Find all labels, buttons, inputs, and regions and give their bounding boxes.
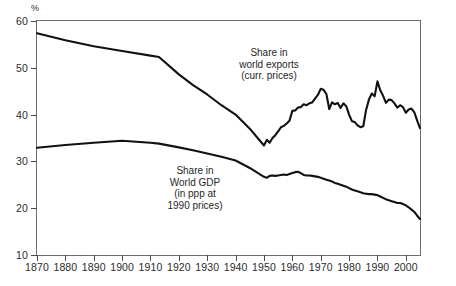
gdp-annotation: Share inWorld GDP(in ppp at1990 prices) [146,165,244,211]
exports-annotation-line-3: (curr. prices) [220,70,318,82]
gdp-annotation-line-4: 1990 prices) [146,200,244,212]
plot-area [0,0,456,286]
gdp-annotation-line-1: Share in [146,165,244,177]
gdp-annotation-line-2: World GDP [146,177,244,189]
exports-annotation-line-2: world exports [220,59,318,71]
exports-annotation-line-1: Share in [220,47,318,59]
exports-annotation: Share inworld exports(curr. prices) [220,47,318,82]
axis-tick-marks [31,22,407,262]
chart-container: % 605040302010 1870188018901900191019201… [0,0,456,286]
gdp-annotation-line-3: (in ppp at [146,188,244,200]
